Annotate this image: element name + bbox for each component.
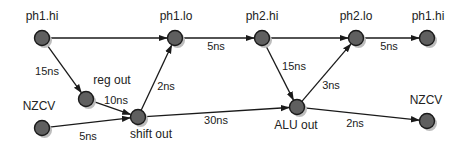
node-nzcv_a [35,121,53,139]
edge-delay-label: 3ns [322,79,340,91]
edge-nzcv_a-to-shift_out [49,118,130,127]
node-label: ph1.lo [160,9,193,23]
label-layer: 15ns10ns5ns2ns5ns15ns3ns30ns5ns2nsph1.hi… [23,9,445,142]
edge-delay-label: 2ns [157,80,175,92]
edge-ph2_hi-to-alu_out [265,45,293,100]
node-circle-icon [79,92,94,107]
node-circle-icon [255,31,270,46]
node-circle-icon [168,31,183,46]
node-label: NZCV [410,93,443,107]
node-ph1_hi_a [35,31,53,49]
node-label: ph2.lo [340,9,373,23]
edge-delay-label: 15ns [35,65,59,77]
edge-delay-label: 15ns [282,60,306,72]
node-label: ph1.hi [412,9,445,23]
node-circle-icon [420,31,435,46]
node-alu_out [290,100,308,118]
node-circle-icon [420,114,435,129]
node-label: NZCV [23,99,56,113]
edge-delay-label: 5ns [380,40,398,52]
node-shift_out [131,110,149,128]
node-circle-icon [131,110,146,125]
node-circle-icon [349,31,364,46]
node-nzcv_b [420,114,438,132]
node-circle-icon [290,100,305,115]
node-ph1_hi_b [420,31,438,49]
edge-shift_out-to-ph1_lo [141,45,171,110]
node-ph2_lo [349,31,367,49]
node-label: reg out [93,73,131,87]
timing-diagram: 15ns10ns5ns2ns5ns15ns3ns30ns5ns2nsph1.hi… [0,0,462,147]
node-label: ph1.hi [26,9,59,23]
node-circle-icon [35,121,50,136]
edge-delay-label: 2ns [346,117,364,129]
node-label: ALU out [274,118,318,132]
edge-alu_out-to-ph2_lo [302,44,351,101]
node-label: ph2.hi [246,9,279,23]
node-label: shift out [130,127,173,141]
node-reg_out [79,92,97,110]
edge-delay-label: 10ns [104,94,128,106]
edge-delay-label: 30ns [204,114,228,126]
node-ph2_hi [255,31,273,49]
edge-delay-label: 5ns [79,130,97,142]
edge-delay-label: 5ns [207,40,225,52]
node-ph1_lo [168,31,186,49]
node-circle-icon [35,31,50,46]
